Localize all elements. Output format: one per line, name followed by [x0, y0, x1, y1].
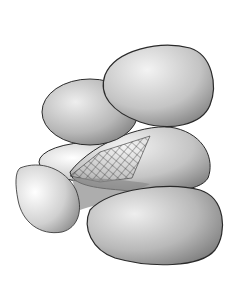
- pebble-illustration: [0, 0, 244, 289]
- stones-drawing: [0, 0, 244, 289]
- bottom-right-stone: [87, 187, 222, 265]
